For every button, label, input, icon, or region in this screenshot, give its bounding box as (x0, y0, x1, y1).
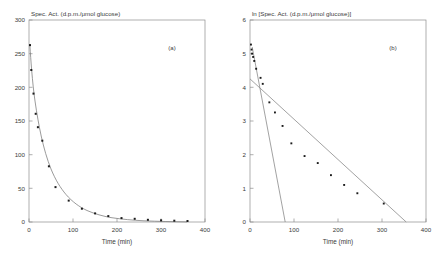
panel-a-ytick-100: 100 (15, 151, 26, 158)
panel-a-ytick-0: 0 (22, 218, 26, 225)
panel-b-title: ln [Spec. Act. (d.p.m./μmol glucose)] (252, 10, 351, 17)
panel-b-plot: 0 1 2 3 4 5 6 0 100 200 300 400 ln [Spec… (224, 0, 448, 258)
panel-a-ytick-50: 50 (18, 185, 25, 192)
panel-b-ytick-2: 2 (243, 151, 247, 158)
panel-a-ytick-300: 300 (15, 16, 26, 23)
panel-b-ytick-1: 1 (243, 185, 247, 192)
panel-b-ytick-5: 5 (243, 50, 247, 57)
panel-b-xtick-300: 300 (377, 226, 388, 233)
panel-b-ytick-6: 6 (243, 16, 247, 23)
panel-a-axes-frame (29, 20, 205, 222)
panel-a-title: Spec. Act. (d.p.m./μmol glucose) (31, 10, 120, 17)
panel-b-xtick-200: 200 (333, 226, 344, 233)
panel-b-xlabel: Time (min) (323, 238, 353, 246)
panel-b: 0 1 2 3 4 5 6 0 100 200 300 400 ln [Spec… (224, 0, 448, 258)
panel-b-slow-component-line (250, 79, 406, 222)
panel-a-xlabel: Time (min) (102, 238, 132, 246)
panel-b-xtick-100: 100 (289, 226, 300, 233)
panel-a-xtick-0: 0 (27, 226, 31, 233)
panel-a-data-points (29, 44, 189, 222)
panel-a: 0 50 100 150 200 250 300 0 100 200 300 4… (0, 0, 224, 258)
panel-b-ytick-3: 3 (243, 117, 247, 124)
panel-b-ytick-4: 4 (243, 84, 247, 91)
panel-a-ytick-200: 200 (15, 84, 26, 91)
panel-b-tag: (b) (389, 45, 396, 51)
panel-b-xtick-400: 400 (421, 226, 432, 233)
panel-b-fast-component-line (252, 47, 285, 222)
panel-b-data-points (250, 44, 385, 205)
panel-b-xtick-0: 0 (248, 226, 252, 233)
panel-b-x-ticks (250, 219, 426, 223)
panel-a-xtick-100: 100 (68, 226, 79, 233)
figure-container: 0 50 100 150 200 250 300 0 100 200 300 4… (0, 0, 448, 258)
panel-a-plot: 0 50 100 150 200 250 300 0 100 200 300 4… (0, 0, 224, 258)
panel-a-ytick-250: 250 (15, 50, 26, 57)
panel-a-y-ticks (29, 20, 33, 222)
panel-a-decay-curve (30, 46, 187, 222)
panel-a-ytick-150: 150 (15, 117, 26, 124)
panel-a-xtick-300: 300 (156, 226, 167, 233)
panel-b-ytick-0: 0 (243, 218, 247, 225)
panel-a-xtick-400: 400 (200, 226, 211, 233)
panel-b-axes-frame (250, 20, 426, 222)
panel-a-tag: (a) (168, 45, 175, 51)
panel-a-xtick-200: 200 (112, 226, 123, 233)
